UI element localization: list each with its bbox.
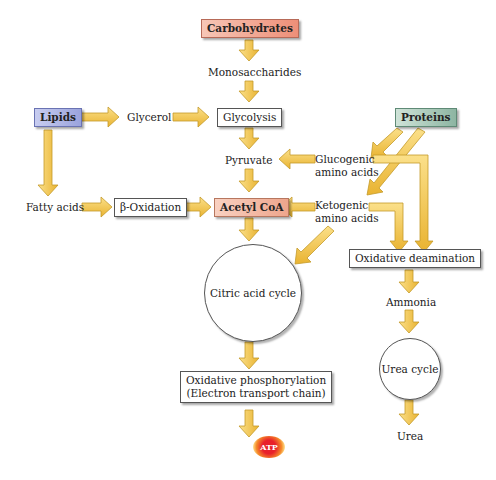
node-ketogenic-line1: Ketogenic xyxy=(315,199,368,212)
node-glycerol: Glycerol xyxy=(127,111,171,124)
arrow-lipids-fatty xyxy=(38,130,58,196)
arrow-ketogenic-citric xyxy=(295,226,334,264)
node-glycolysis: Glycolysis xyxy=(217,108,282,127)
arrow-deam-ammonia xyxy=(399,270,419,293)
arrow-lipids-glycerol xyxy=(80,107,119,127)
ox-phos-line1: Oxidative phosphorylation xyxy=(186,374,326,387)
arrow-acetyl-citric xyxy=(239,218,259,241)
node-fatty-acids: Fatty acids xyxy=(26,201,84,214)
node-pyruvate: Pyruvate xyxy=(225,154,272,167)
arrow-carb-mono xyxy=(239,40,259,61)
node-oxidative-phosphorylation: Oxidative phosphorylation (Electron tran… xyxy=(180,371,332,403)
arrow-mono-glyco xyxy=(239,81,259,102)
arrow-glucogenic-pyr xyxy=(279,149,315,169)
arrow-pyr-acetyl xyxy=(239,169,259,192)
node-lipids: Lipids xyxy=(34,108,82,127)
ox-phos-line2: (Electron transport chain) xyxy=(186,387,326,400)
node-carbohydrates: Carbohydrates xyxy=(201,19,299,38)
arrow-citric-oxphos xyxy=(239,342,259,369)
node-urea: Urea xyxy=(397,430,423,443)
atp-burst-icon: ATP xyxy=(253,436,285,458)
arrow-glyco-pyr xyxy=(239,128,259,149)
urea-cycle-label: Urea cycle xyxy=(382,363,439,375)
arrow-fatty-beta xyxy=(82,197,112,217)
node-urea-cycle: Urea cycle xyxy=(379,338,441,400)
arrow-ammonia-urea xyxy=(399,310,419,333)
node-citric-acid-cycle: Citric acid cycle xyxy=(204,244,302,342)
citric-acid-cycle-label: Citric acid cycle xyxy=(210,287,296,299)
node-glucogenic-line2: amino acids xyxy=(315,166,379,179)
arrow-beta-acetyl xyxy=(185,197,211,217)
arrow-ureacycle-urea xyxy=(399,400,419,425)
arrow-glycerol-glyco xyxy=(173,107,209,127)
node-proteins: Proteins xyxy=(395,108,457,127)
node-oxidative-deamination: Oxidative deamination xyxy=(349,249,481,268)
arrow-oxphos-atp xyxy=(239,410,259,437)
node-beta-oxidation: β-Oxidation xyxy=(114,198,187,217)
arrow-ketogenic-deam xyxy=(369,203,408,252)
node-acetyl-coa: Acetyl CoA xyxy=(214,198,289,217)
node-glucogenic-line1: Glucogenic xyxy=(315,153,375,166)
node-monosaccharides: Monosaccharides xyxy=(208,66,301,79)
node-ketogenic-line2: amino acids xyxy=(315,212,379,225)
node-ammonia: Ammonia xyxy=(386,296,436,309)
